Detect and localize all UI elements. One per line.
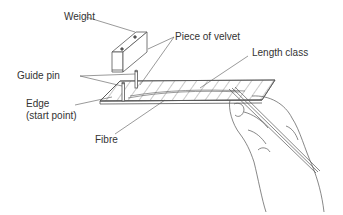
label-length-class: Length class [252,47,308,58]
label-weight: Weight [64,11,95,22]
label-guide-pin: Guide pin [17,70,60,81]
weight-block [112,32,147,72]
label-piece-of-velvet: Piece of velvet [175,31,240,42]
diagram-drawing [0,0,343,215]
hand-with-tweezers [229,87,324,212]
label-fibre: Fibre [95,134,118,145]
label-edge: Edge [26,98,49,109]
label-edge-start-point: (start point) [26,110,77,121]
